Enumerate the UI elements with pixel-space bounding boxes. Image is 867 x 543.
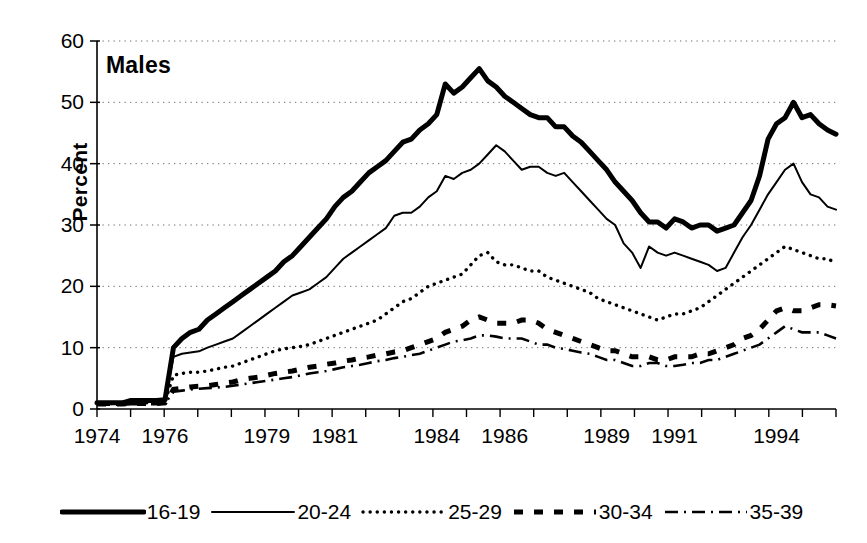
legend-swatch-dotted [361,504,447,520]
legend-label: 30-34 [598,500,657,524]
plot-title: Males [106,52,171,79]
legend-item-16-19[interactable]: 16-19 [60,500,205,524]
x-axis-tick-label: 1976 [127,424,203,448]
x-axis-tick-label: 1974 [59,424,135,448]
x-axis-tick-label: 1989 [569,424,645,448]
legend-label: 25-29 [447,500,506,524]
series-line-20-24 [97,145,836,403]
x-axis-tick-label: 1994 [739,424,815,448]
y-axis-tick-label: 10 [40,337,84,358]
series-line-35-39 [97,326,836,405]
legend-swatch-thick-solid [60,504,146,520]
y-axis-tick-label: 50 [40,91,84,112]
legend-label: 35-39 [749,500,808,524]
legend-label: 16-19 [146,500,205,524]
y-axis-tick-labels: 0102030405060 [38,0,84,543]
legend-swatch-thin-solid [210,504,296,520]
y-axis-tick-label: 60 [40,30,84,51]
series-line-16-19 [97,69,836,403]
x-axis-tick-label: 1986 [467,424,543,448]
legend-swatch-dash-dot [663,504,749,520]
y-axis-tick-label: 40 [40,153,84,174]
y-axis-tick-label: 0 [40,398,84,419]
legend-item-25-29[interactable]: 25-29 [361,500,506,524]
legend-item-20-24[interactable]: 20-24 [210,500,355,524]
legend-label: 20-24 [296,500,355,524]
y-axis-tick-label: 20 [40,275,84,296]
legend-item-35-39[interactable]: 35-39 [663,500,808,524]
chart-figure: Percent 0102030405060 Males 197419761979… [0,0,867,543]
y-axis-tick-label: 30 [40,214,84,235]
legend-item-30-34[interactable]: 30-34 [512,500,657,524]
legend-swatch-thick-dashed [512,504,598,520]
x-axis-tick-label: 1991 [637,424,713,448]
plot-area [0,0,867,543]
x-axis-tick-label: 1984 [399,424,475,448]
x-axis-tick-label: 1979 [229,424,305,448]
x-axis-tick-label: 1981 [297,424,373,448]
chart-legend: 16-1920-2425-2930-3435-39 [0,492,867,532]
